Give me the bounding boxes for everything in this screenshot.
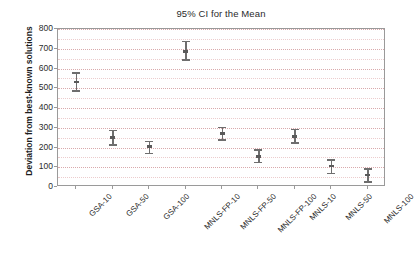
x-tick-label: MNLS-FP-50 (239, 192, 278, 231)
x-tick-mark (294, 186, 295, 189)
x-tick-label: GSA-100 (162, 192, 192, 222)
x-tick-mark (221, 186, 222, 189)
y-tick-mark (54, 147, 57, 148)
y-tick-mark (54, 127, 57, 128)
x-tick-label: GSA-50 (124, 192, 150, 218)
y-tick-label: 0 (48, 181, 53, 191)
y-tick-mark (54, 107, 57, 108)
y-tick-mark (54, 87, 57, 88)
y-tick-label: 500 (39, 82, 53, 92)
y-tick-label: 600 (39, 63, 53, 73)
y-tick-mark (54, 166, 57, 167)
x-tick-mark (148, 186, 149, 189)
y-tick-label: 200 (39, 142, 53, 152)
x-tick-mark (367, 186, 368, 189)
x-tick-mark (185, 186, 186, 189)
x-tick-mark (330, 186, 331, 189)
y-tick-mark (54, 48, 57, 49)
x-tick-label: GSA-10 (88, 192, 114, 218)
x-tick-label: MNLS-50 (344, 192, 374, 222)
y-tick-label: 800 (39, 23, 53, 33)
y-tick-label: 300 (39, 122, 53, 132)
x-tick-label: MNLS-100 (382, 192, 414, 225)
x-axis-ticks: GSA-10GSA-50GSA-100MNLS-FP-10MNLS-FP-50M… (57, 186, 385, 256)
y-tick-label: 100 (39, 161, 53, 171)
y-axis-ticks: 0100200300400500600700800 (57, 28, 385, 186)
y-tick-label: 400 (39, 102, 53, 112)
chart-title: 95% CI for the Mean (57, 8, 385, 19)
y-tick-mark (54, 68, 57, 69)
x-tick-mark (112, 186, 113, 189)
chart-figure: 95% CI for the Mean Deviation from best-… (0, 0, 414, 257)
x-tick-mark (75, 186, 76, 189)
x-tick-label: MNLS-FP-10 (202, 192, 241, 231)
y-axis-label: Deviation from best-known solutions (24, 11, 34, 191)
y-tick-mark (54, 28, 57, 29)
x-tick-mark (257, 186, 258, 189)
y-tick-label: 700 (39, 43, 53, 53)
